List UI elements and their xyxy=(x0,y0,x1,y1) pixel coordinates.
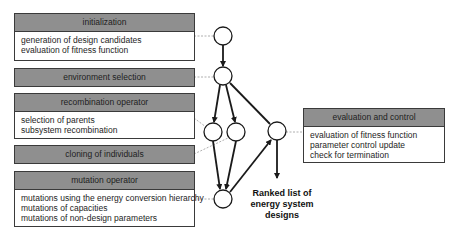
node-cloning xyxy=(227,123,245,141)
evaluation-item: parameter control update xyxy=(310,140,438,150)
mutation-item: mutations of capacities xyxy=(21,203,188,213)
recombination-item: subsystem recombination xyxy=(21,125,188,135)
mutation-box: mutation operator mutations using the en… xyxy=(14,171,195,227)
node-recombination xyxy=(204,123,222,141)
initialization-item: evaluation of fitness function xyxy=(21,45,188,55)
result-line: Ranked list of xyxy=(248,188,316,199)
mutation-item: mutations of non-design parameters xyxy=(21,213,188,223)
node-environment-selection xyxy=(214,67,232,85)
node-mutation xyxy=(214,190,232,208)
evaluation-box: evaluation and control evaluation of fit… xyxy=(303,108,445,163)
cloning-box: cloning of individuals xyxy=(14,145,195,164)
evaluation-title: evaluation and control xyxy=(304,109,444,127)
environment-selection-box: environment selection xyxy=(14,68,195,87)
recombination-title: recombination operator xyxy=(15,94,194,112)
mutation-title: mutation operator xyxy=(15,172,194,190)
result-line: designs xyxy=(248,210,316,221)
initialization-item: generation of design candidates xyxy=(21,35,188,45)
evaluation-item: evaluation of fitness function xyxy=(310,130,438,140)
result-label: Ranked list of energy system designs xyxy=(248,188,316,221)
recombination-item: selection of parents xyxy=(21,115,188,125)
initialization-box: initialization generation of design cand… xyxy=(14,13,195,61)
node-evaluation xyxy=(268,122,286,140)
node-initialization xyxy=(214,27,232,45)
result-line: energy system xyxy=(248,199,316,210)
cloning-title: cloning of individuals xyxy=(15,146,194,163)
environment-selection-title: environment selection xyxy=(15,69,194,86)
mutation-item: mutations using the energy conversion hi… xyxy=(21,193,188,203)
evaluation-item: check for termination xyxy=(310,150,438,160)
connector-lines xyxy=(194,36,303,199)
initialization-title: initialization xyxy=(15,14,194,32)
recombination-box: recombination operator selection of pare… xyxy=(14,93,195,139)
